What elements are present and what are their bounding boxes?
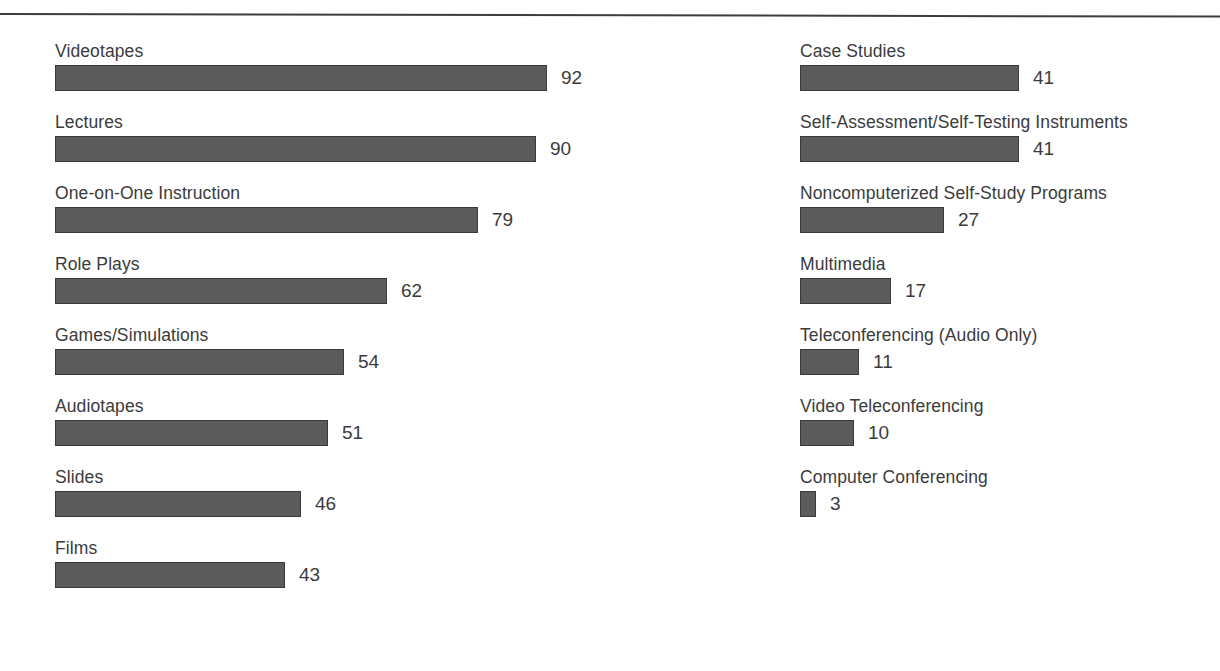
bar-value-label: 51 bbox=[342, 422, 363, 444]
bar-category-label: Multimedia bbox=[800, 254, 886, 275]
bar-track: 10 bbox=[800, 420, 854, 446]
bar-fill bbox=[800, 491, 816, 517]
bar-category-label: Teleconferencing (Audio Only) bbox=[800, 325, 1037, 346]
bar-track: 43 bbox=[55, 562, 285, 588]
bar-track: 3 bbox=[800, 491, 816, 517]
bar-track: 51 bbox=[55, 420, 328, 446]
bar-fill bbox=[55, 349, 344, 375]
bar-value-label: 62 bbox=[401, 280, 422, 302]
bar-fill bbox=[55, 136, 536, 162]
bar-value-label: 54 bbox=[358, 351, 379, 373]
bar-fill bbox=[800, 278, 891, 304]
bar-category-label: Noncomputerized Self-Study Programs bbox=[800, 183, 1107, 204]
bar-category-label: Films bbox=[55, 538, 97, 559]
bar-value-label: 17 bbox=[905, 280, 926, 302]
bar-fill bbox=[800, 136, 1019, 162]
bar-track: 79 bbox=[55, 207, 478, 233]
bar-track: 62 bbox=[55, 278, 387, 304]
bar-value-label: 92 bbox=[561, 67, 582, 89]
bar-category-label: Computer Conferencing bbox=[800, 467, 988, 488]
bar-category-label: Self-Assessment/Self-Testing Instruments bbox=[800, 112, 1128, 133]
bar-value-label: 90 bbox=[550, 138, 571, 160]
bar-fill bbox=[55, 278, 387, 304]
bar-fill bbox=[800, 420, 854, 446]
bar-track: 11 bbox=[800, 349, 859, 375]
bar-category-label: Role Plays bbox=[55, 254, 140, 275]
bar-value-label: 10 bbox=[868, 422, 889, 444]
bar-category-label: Videotapes bbox=[55, 41, 143, 62]
bar-category-label: Audiotapes bbox=[55, 396, 144, 417]
bar-value-label: 3 bbox=[830, 493, 841, 515]
bar-category-label: Video Teleconferencing bbox=[800, 396, 984, 417]
bar-category-label: Lectures bbox=[55, 112, 123, 133]
bar-value-label: 41 bbox=[1033, 67, 1054, 89]
bar-track: 17 bbox=[800, 278, 891, 304]
bar-value-label: 27 bbox=[958, 209, 979, 231]
bar-track: 46 bbox=[55, 491, 301, 517]
bar-category-label: Case Studies bbox=[800, 41, 905, 62]
bar-fill bbox=[800, 349, 859, 375]
bar-value-label: 79 bbox=[492, 209, 513, 231]
bar-track: 90 bbox=[55, 136, 536, 162]
bar-fill bbox=[800, 207, 944, 233]
bar-value-label: 43 bbox=[299, 564, 320, 586]
bar-fill bbox=[55, 562, 285, 588]
bar-fill bbox=[55, 491, 301, 517]
bar-track: 27 bbox=[800, 207, 944, 233]
bar-track: 41 bbox=[800, 136, 1019, 162]
bar-fill bbox=[55, 420, 328, 446]
bar-value-label: 46 bbox=[315, 493, 336, 515]
bar-category-label: One-on-One Instruction bbox=[55, 183, 240, 204]
bar-category-label: Games/Simulations bbox=[55, 325, 208, 346]
horizontal-bar-chart: Videotapes92Lectures90One-on-One Instruc… bbox=[0, 0, 1220, 671]
bar-fill bbox=[800, 65, 1019, 91]
bar-fill bbox=[55, 65, 547, 91]
bar-track: 54 bbox=[55, 349, 344, 375]
bar-value-label: 11 bbox=[873, 351, 893, 373]
bar-track: 92 bbox=[55, 65, 547, 91]
bar-fill bbox=[55, 207, 478, 233]
bar-value-label: 41 bbox=[1033, 138, 1054, 160]
bar-category-label: Slides bbox=[55, 467, 103, 488]
bar-track: 41 bbox=[800, 65, 1019, 91]
